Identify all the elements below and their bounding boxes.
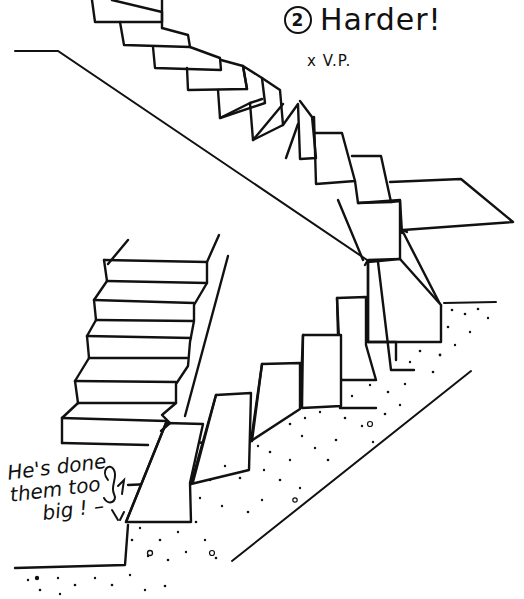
step-number-badge: 2 bbox=[284, 6, 312, 34]
title-text: Harder! bbox=[320, 2, 442, 37]
landing bbox=[390, 179, 513, 232]
left-background-stairs bbox=[62, 235, 228, 445]
upper-flight-stairs bbox=[92, 0, 402, 260]
lower-flight-stairs bbox=[15, 259, 441, 568]
handwritten-note: He's done them too big ! – bbox=[6, 450, 113, 528]
sketch-title: 2Harder! bbox=[284, 2, 442, 37]
vanishing-point-label: x V.P. bbox=[307, 52, 351, 70]
